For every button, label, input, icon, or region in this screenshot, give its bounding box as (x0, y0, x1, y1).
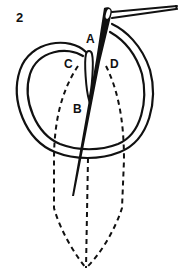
step-number: 2 (16, 10, 23, 25)
stitch-diagram: 2 A C D B (0, 0, 183, 273)
label-c: C (64, 57, 73, 71)
label-b: B (73, 102, 82, 116)
label-a: A (86, 32, 95, 46)
thread-tail (112, 6, 177, 18)
label-d: D (110, 57, 119, 71)
